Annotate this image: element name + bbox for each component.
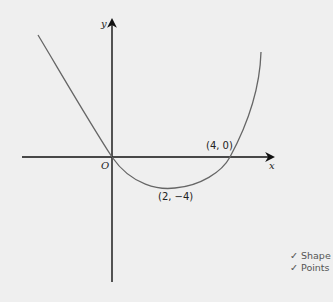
turning-point-label: (2, −4) <box>158 191 193 202</box>
check-icon: ✓ <box>290 250 298 261</box>
origin-label: O <box>101 160 109 171</box>
x-intercept-label: (4, 0) <box>206 140 233 151</box>
mark-shape: ✓ Shape <box>290 250 331 262</box>
mark-label: Points <box>301 262 330 273</box>
check-icon: ✓ <box>290 262 298 273</box>
x-axis-label: x <box>269 160 275 171</box>
mark-scheme: ✓ Shape ✓ Points <box>290 250 331 274</box>
curve <box>38 35 261 188</box>
mark-label: Shape <box>301 250 331 261</box>
mark-points: ✓ Points <box>290 262 331 274</box>
graph-canvas <box>0 0 333 302</box>
y-axis-label: y <box>101 18 107 29</box>
